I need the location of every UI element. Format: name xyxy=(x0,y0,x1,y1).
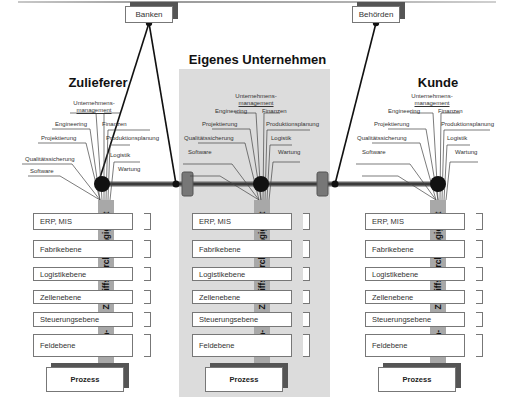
fn-software-2: Software xyxy=(188,149,212,156)
level-steuerung: Steuerungsebene xyxy=(33,312,133,327)
fn-engineering-2: Engineering xyxy=(215,108,247,115)
level-zellen: Zellenebene xyxy=(33,290,133,304)
external-box-banks: Banken xyxy=(125,6,173,23)
fn-wartung-2: Wartung xyxy=(278,149,300,156)
fn-software-3: Software xyxy=(362,149,386,156)
level-zellen: Zellenebene xyxy=(365,290,465,304)
level-erp-mis: ERP, MIS xyxy=(365,213,465,230)
fn-projektierung-2: Projektierung xyxy=(202,121,237,128)
fn-projektierung-1: Projektierung xyxy=(41,135,76,142)
fn-finanzen-3: Finanzen xyxy=(438,108,463,115)
level-feld: Feldebene xyxy=(192,334,292,357)
fn-qualitaet-3: Qualitätssicherung xyxy=(357,135,407,142)
level-zellen: Zellenebene xyxy=(192,290,292,304)
level-steuerung: Steuerungsebene xyxy=(192,312,292,327)
fn-management-1: Unternehmens-management xyxy=(66,100,122,114)
fn-logistik-1: Logistik xyxy=(110,152,130,159)
level-feld: Feldebene xyxy=(33,334,133,357)
level-logistik: Logistikebene xyxy=(192,267,292,281)
external-box-authorities: Behörden xyxy=(352,6,400,23)
fn-produktion-3: Produktionsplanung xyxy=(441,121,494,128)
fn-finanzen-1: Finanzen xyxy=(102,121,127,128)
banks-label: Banken xyxy=(125,6,173,23)
fn-wartung-3: Wartung xyxy=(455,149,477,156)
level-steuerung: Steuerungsebene xyxy=(365,312,465,327)
level-fabrik: Fabrikebene xyxy=(33,240,133,258)
fn-engineering-1: Engineering xyxy=(55,121,87,128)
authorities-label: Behörden xyxy=(352,6,400,23)
fn-produktion-2: Produktionsplanung xyxy=(266,121,319,128)
column-title-customer: Kunde xyxy=(408,75,468,90)
level-logistik: Logistikebene xyxy=(33,267,133,281)
level-fabrik: Fabrikebene xyxy=(365,240,465,258)
level-feld: Feldebene xyxy=(365,334,465,357)
column-title-own-company: Eigenes Unternehmen xyxy=(180,52,335,67)
process-box-customer: Prozess xyxy=(378,367,456,392)
level-erp-mis: ERP, MIS xyxy=(33,213,133,230)
column-title-supplier: Zulieferer xyxy=(58,75,138,90)
fn-management-3: Unternehmens-management xyxy=(404,93,460,107)
fn-management-2: Unternehmens-management xyxy=(228,93,284,107)
fn-wartung-1: Wartung xyxy=(118,166,140,173)
level-erp-mis: ERP, MIS xyxy=(192,213,292,230)
process-box-supplier: Prozess xyxy=(46,367,124,392)
fn-engineering-3: Engineering xyxy=(388,108,420,115)
fn-logistik-3: Logistik xyxy=(447,135,467,142)
fn-qualitaet-2: Qualitätssicherung xyxy=(184,135,234,142)
fn-projektierung-3: Projektierung xyxy=(374,121,409,128)
level-logistik: Logistikebene xyxy=(365,267,465,281)
fn-qualitaet-1: Qualitätssicherung xyxy=(25,156,75,163)
level-fabrik: Fabrikebene xyxy=(192,240,292,258)
fn-finanzen-2: Finanzen xyxy=(262,108,287,115)
fn-logistik-2: Logistik xyxy=(271,135,291,142)
fn-produktion-1: Produktionsplanung xyxy=(106,135,159,142)
process-box-own-company: Prozess xyxy=(205,367,283,392)
fn-software-1: Software xyxy=(30,168,54,175)
